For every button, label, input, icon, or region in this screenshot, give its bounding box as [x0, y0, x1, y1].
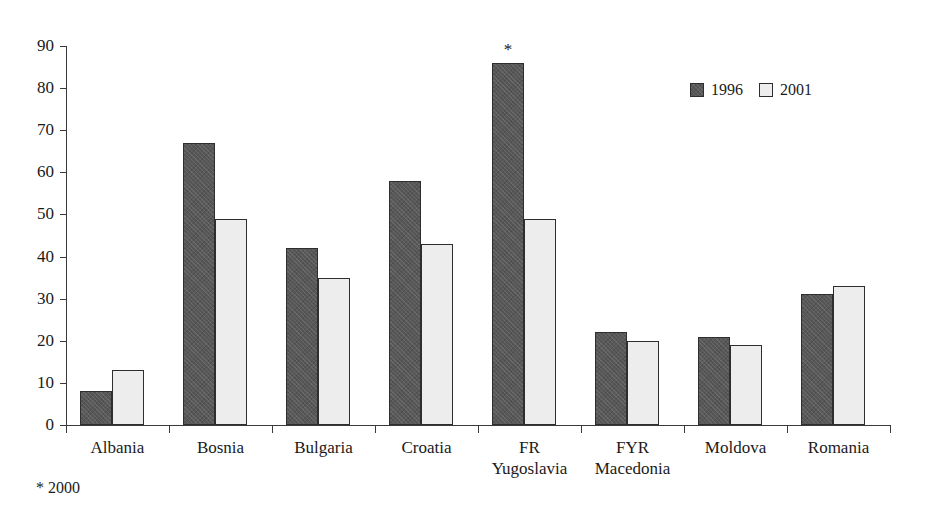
- y-tick-label-90: 90: [10, 37, 54, 54]
- bar: [215, 219, 247, 425]
- x-label-line1: Bulgaria: [294, 438, 353, 457]
- y-tick-label-0: 0: [10, 416, 54, 433]
- bar: [389, 181, 421, 425]
- bar: [492, 63, 524, 425]
- chart-footnote: * 2000: [36, 480, 80, 496]
- x-label-fr-yugoslavia: FRYugoslavia: [478, 437, 581, 479]
- y-tick-label-10: 10: [10, 374, 54, 391]
- legend: 1996 2001: [690, 82, 812, 98]
- x-tick-1: [169, 426, 170, 433]
- x-label-line2: Yugoslavia: [478, 458, 581, 479]
- x-label-croatia: Croatia: [375, 437, 478, 458]
- y-tick-label-50: 50: [10, 205, 54, 222]
- bar: [524, 219, 556, 425]
- bar: [318, 278, 350, 425]
- bar-group: [581, 46, 684, 425]
- bar: [801, 294, 833, 425]
- bar-group: [787, 46, 890, 425]
- bar: [730, 345, 762, 425]
- bar: [421, 244, 453, 425]
- x-label-fyr-macedonia: FYRMacedonia: [581, 437, 684, 479]
- y-tick-label-70: 70: [10, 121, 54, 138]
- y-tick-label-20: 20: [10, 332, 54, 349]
- bar: [286, 248, 318, 425]
- x-tick-7: [787, 426, 788, 433]
- x-tick-4: [478, 426, 479, 433]
- bar-group: [684, 46, 787, 425]
- legend-swatch-1996: [690, 83, 704, 97]
- x-tick-3: [375, 426, 376, 433]
- bar-group: [169, 46, 272, 425]
- legend-label-2001: 2001: [780, 82, 812, 98]
- legend-label-1996: 1996: [711, 82, 743, 98]
- bar-group: [478, 46, 581, 425]
- bar: [698, 337, 730, 425]
- x-tick-0: [66, 426, 67, 433]
- bar-annotation-asterisk: *: [491, 41, 525, 58]
- x-label-line1: Moldova: [705, 438, 766, 457]
- bar-group: [272, 46, 375, 425]
- y-tick-label-80: 80: [10, 79, 54, 96]
- bar: [183, 143, 215, 425]
- x-label-albania: Albania: [66, 437, 169, 458]
- x-tick-5: [581, 426, 582, 433]
- bar: [80, 391, 112, 425]
- x-label-line1: Bosnia: [197, 438, 244, 457]
- x-label-line1: Romania: [808, 438, 869, 457]
- legend-swatch-2001: [759, 83, 773, 97]
- x-label-romania: Romania: [787, 437, 890, 458]
- y-tick-label-60: 60: [10, 163, 54, 180]
- x-tick-6: [684, 426, 685, 433]
- bar: [112, 370, 144, 425]
- bar: [627, 341, 659, 425]
- x-tick-2: [272, 426, 273, 433]
- x-label-line1: FR: [519, 438, 540, 457]
- legend-item-2001: 2001: [759, 82, 812, 98]
- x-label-moldova: Moldova: [684, 437, 787, 458]
- x-label-bulgaria: Bulgaria: [272, 437, 375, 458]
- legend-item-1996: 1996: [690, 82, 743, 98]
- y-tick-label-30: 30: [10, 290, 54, 307]
- plot-area: [66, 46, 890, 425]
- bar-group: [66, 46, 169, 425]
- x-label-line2: Macedonia: [581, 458, 684, 479]
- x-label-line1: Albania: [91, 438, 145, 457]
- x-label-line1: FYR: [616, 438, 649, 457]
- x-label-line1: Croatia: [401, 438, 451, 457]
- bar-chart: 0102030405060708090 AlbaniaBosniaBulgari…: [0, 0, 929, 516]
- x-label-bosnia: Bosnia: [169, 437, 272, 458]
- bar-group: [375, 46, 478, 425]
- y-tick-label-40: 40: [10, 248, 54, 265]
- bar: [595, 332, 627, 425]
- x-tick-8: [890, 426, 891, 433]
- bar: [833, 286, 865, 425]
